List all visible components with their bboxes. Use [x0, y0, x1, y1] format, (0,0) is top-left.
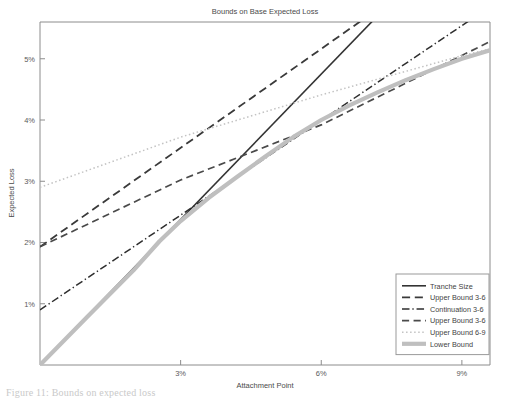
- legend[interactable]: Tranche SizeUpper Bound 3-6Continuation …: [396, 274, 489, 355]
- x-tick-label: 6%: [316, 369, 327, 378]
- y-tick-label: 5%: [24, 55, 35, 64]
- figure-caption: Figure 11: Bounds on expected loss: [6, 387, 155, 398]
- series-line-4: [40, 49, 490, 187]
- y-axis-label: Expected Loss: [7, 168, 16, 217]
- x-tick-label: 9%: [456, 369, 467, 378]
- series-line-1: [40, 0, 490, 247]
- legend-label-2: Continuation 3-6: [430, 305, 484, 314]
- legend-label-4: Upper Bound 6-9: [430, 328, 486, 337]
- chart-title: Bounds on Base Expected Loss: [212, 7, 319, 16]
- y-tick-label: 1%: [24, 300, 35, 309]
- legend-label-5: Lower Bound: [430, 340, 473, 349]
- legend-label-3: Upper Bound 3-6: [430, 316, 486, 325]
- y-tick-label: 4%: [24, 116, 35, 125]
- x-axis-label: Attachment Point: [236, 381, 294, 390]
- y-tick-label: 3%: [24, 177, 35, 186]
- legend-label-0: Tranche Size: [430, 282, 473, 291]
- x-tick-label: 3%: [175, 369, 186, 378]
- chart-canvas: Bounds on Base Expected Loss 3%6%9%1%2%3…: [0, 0, 513, 399]
- figure-container: Bounds on Base Expected Loss 3%6%9%1%2%3…: [0, 0, 513, 399]
- y-tick-label: 2%: [24, 238, 35, 247]
- legend-label-1: Upper Bound 3-6: [430, 293, 486, 302]
